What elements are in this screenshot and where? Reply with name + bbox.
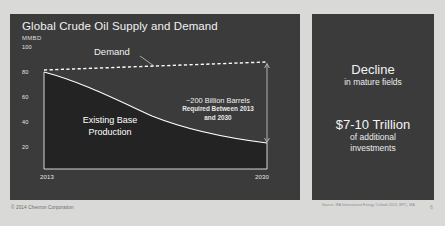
base-production-label-line1: Existing Base — [83, 115, 138, 125]
gap-callout-label: ~200 Billion Barrels Required Between 20… — [170, 96, 266, 122]
callout-investment-sub1: of additional — [312, 132, 434, 143]
chart-unit-label: MMBD — [22, 35, 42, 41]
callout-decline-head: Decline — [312, 62, 434, 77]
gap-callout-line3: and 2030 — [170, 114, 266, 123]
callout-investment-head: $7-10 Trillion — [312, 117, 434, 132]
demand-line — [44, 62, 267, 70]
chart-panel: Global Crude Oil Supply and Demand MMBD … — [10, 14, 300, 200]
demand-series-label: Demand — [94, 46, 130, 57]
page-title: Global Crude Oil Supply and Demand — [22, 20, 218, 32]
callout-investment-sub2: investments — [312, 143, 434, 154]
demand-leader-line — [140, 56, 154, 66]
callout-investment: $7-10 Trillion of additional investments — [312, 117, 434, 154]
page-number: 6 — [430, 204, 433, 210]
chart-plot-area: 100 80 60 40 20 — [22, 44, 290, 192]
base-production-label-line2: Production — [88, 127, 131, 137]
source-note: Source: IEA International Energy Outlook… — [322, 203, 415, 207]
x-tick-2013: 2013 — [40, 174, 54, 180]
slide-canvas: Global Crude Oil Supply and Demand MMBD … — [0, 0, 445, 226]
callout-decline: Decline in mature fields — [312, 62, 434, 88]
gap-callout-line1: ~200 Billion Barrels — [170, 96, 266, 105]
callout-panel: Decline in mature fields $7-10 Trillion … — [312, 14, 434, 200]
gap-callout-line2: Required Between 2013 — [170, 105, 266, 114]
base-production-series-label: Existing Base Production — [62, 114, 158, 138]
x-tick-2030: 2030 — [255, 174, 269, 180]
copyright-notice: © 2014 Chevron Corporation — [11, 205, 74, 210]
callout-decline-sub: in mature fields — [312, 77, 434, 88]
